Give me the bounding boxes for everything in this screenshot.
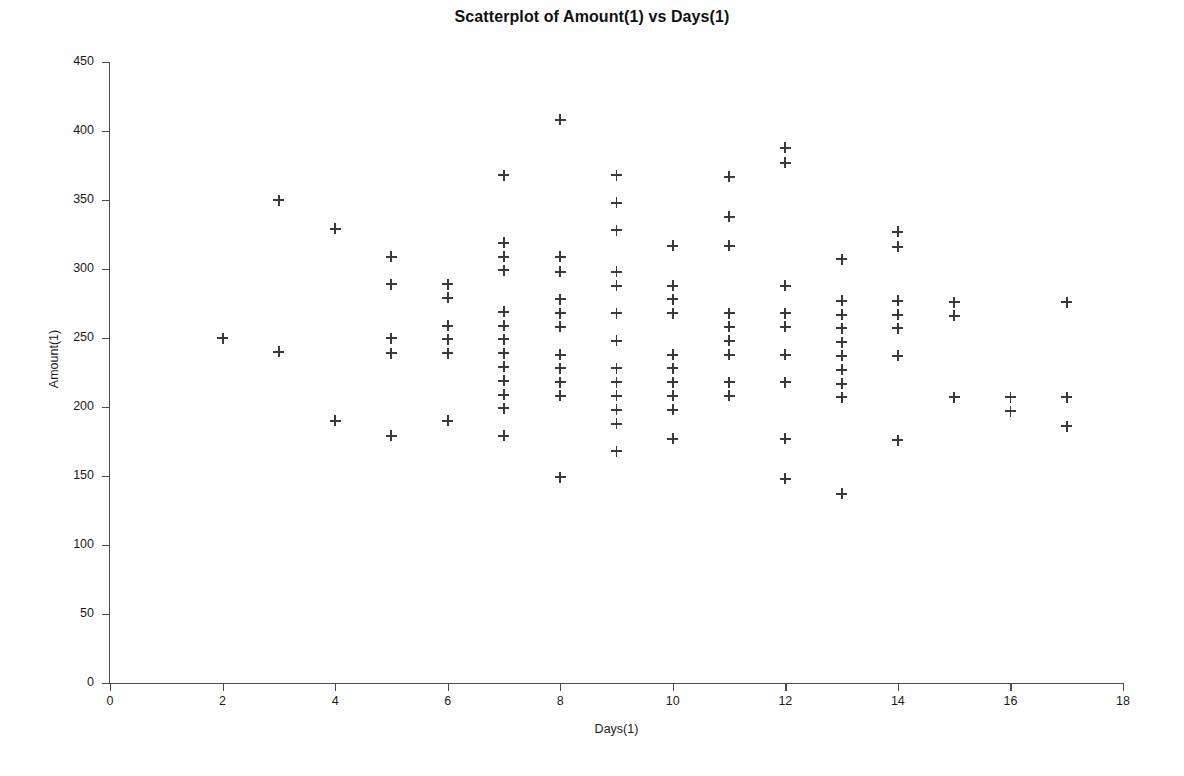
data-point-marker	[892, 295, 903, 306]
y-axis-tick	[102, 131, 110, 132]
x-axis-tick-label: 2	[203, 694, 243, 708]
data-point-marker	[555, 321, 566, 332]
data-point-marker	[273, 346, 284, 357]
data-point-marker	[611, 390, 622, 401]
data-point-marker	[949, 297, 960, 308]
data-point-marker	[667, 240, 678, 251]
x-axis-tick-label: 0	[90, 694, 130, 708]
chart-title: Scatterplot of Amount(1) vs Days(1)	[0, 8, 1184, 26]
data-point-marker	[442, 348, 453, 359]
data-point-marker	[498, 403, 509, 414]
y-axis-tick	[102, 614, 110, 615]
data-point-marker	[555, 377, 566, 388]
data-point-marker	[217, 333, 228, 344]
y-axis-tick-label: 350	[34, 192, 94, 206]
data-point-marker	[892, 350, 903, 361]
data-point-marker	[442, 320, 453, 331]
x-axis-tick	[785, 683, 786, 691]
data-point-marker	[555, 251, 566, 262]
data-point-marker	[836, 364, 847, 375]
data-point-marker	[724, 349, 735, 360]
data-point-marker	[724, 377, 735, 388]
data-point-marker	[442, 334, 453, 345]
data-point-marker	[780, 157, 791, 168]
x-axis-tick-label: 8	[540, 694, 580, 708]
data-point-marker	[667, 349, 678, 360]
data-point-marker	[836, 295, 847, 306]
data-point-marker	[498, 348, 509, 359]
x-axis-tick	[898, 683, 899, 691]
x-axis-tick	[110, 683, 111, 691]
y-axis-tick	[102, 269, 110, 270]
data-point-marker	[836, 309, 847, 320]
data-point-marker	[555, 472, 566, 483]
data-point-marker	[780, 142, 791, 153]
data-point-marker	[611, 335, 622, 346]
data-point-marker	[611, 418, 622, 429]
data-point-marker	[780, 308, 791, 319]
x-axis-tick	[223, 683, 224, 691]
data-point-marker	[667, 294, 678, 305]
data-point-marker	[667, 308, 678, 319]
y-axis-tick-label: 400	[34, 123, 94, 137]
data-point-marker	[724, 390, 735, 401]
data-point-marker	[611, 266, 622, 277]
y-axis-tick-label: 300	[34, 261, 94, 275]
data-point-marker	[273, 195, 284, 206]
y-axis-tick-label: 200	[34, 399, 94, 413]
data-point-marker	[667, 363, 678, 374]
data-point-marker	[949, 310, 960, 321]
data-point-marker	[1061, 392, 1072, 403]
data-point-marker	[724, 321, 735, 332]
data-point-marker	[498, 265, 509, 276]
data-point-marker	[611, 197, 622, 208]
data-point-marker	[836, 254, 847, 265]
data-point-marker	[836, 488, 847, 499]
data-point-marker	[667, 433, 678, 444]
data-point-marker	[949, 392, 960, 403]
data-point-marker	[498, 170, 509, 181]
y-axis-tick-label: 0	[34, 675, 94, 689]
data-point-marker	[780, 433, 791, 444]
data-point-marker	[386, 430, 397, 441]
data-point-marker	[555, 114, 566, 125]
x-axis-tick-label: 18	[1103, 694, 1143, 708]
x-axis-tick	[673, 683, 674, 691]
data-point-marker	[498, 375, 509, 386]
data-point-marker	[724, 240, 735, 251]
x-axis-tick-label: 6	[428, 694, 468, 708]
scatterplot-figure: Scatterplot of Amount(1) vs Days(1) Amou…	[0, 0, 1184, 776]
data-point-marker	[836, 378, 847, 389]
data-point-marker	[330, 415, 341, 426]
data-point-marker	[892, 241, 903, 252]
data-point-marker	[442, 279, 453, 290]
data-point-marker	[386, 348, 397, 359]
data-point-marker	[330, 223, 341, 234]
data-point-marker	[724, 211, 735, 222]
data-point-marker	[498, 389, 509, 400]
data-point-marker	[836, 392, 847, 403]
x-axis-tick-label: 16	[990, 694, 1030, 708]
data-point-marker	[724, 171, 735, 182]
data-point-marker	[498, 306, 509, 317]
data-point-marker	[611, 446, 622, 457]
x-axis-tick-label: 14	[878, 694, 918, 708]
data-point-marker	[780, 349, 791, 360]
data-point-marker	[386, 279, 397, 290]
data-point-marker	[442, 415, 453, 426]
x-axis-tick	[560, 683, 561, 691]
data-point-marker	[780, 473, 791, 484]
data-point-marker	[611, 377, 622, 388]
data-point-marker	[667, 390, 678, 401]
y-axis-tick	[102, 476, 110, 477]
data-point-marker	[836, 337, 847, 348]
data-point-marker	[836, 323, 847, 334]
data-point-marker	[498, 361, 509, 372]
data-point-marker	[555, 349, 566, 360]
x-axis-tick	[448, 683, 449, 691]
data-point-marker	[498, 251, 509, 262]
y-axis-tick	[102, 545, 110, 546]
data-point-marker	[780, 321, 791, 332]
data-point-marker	[611, 308, 622, 319]
y-axis-tick	[102, 683, 110, 684]
